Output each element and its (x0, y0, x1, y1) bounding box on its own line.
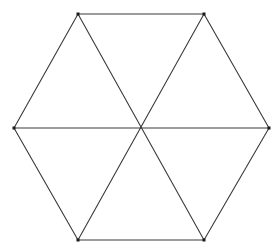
vertex-marker-right (268, 127, 271, 130)
hexagon-diagram (0, 0, 280, 252)
vertex-marker-bottom-right (203, 239, 206, 242)
vertex-marker-left (13, 127, 16, 130)
vertex-marker-top-right (203, 13, 206, 16)
hexagon-figure-canvas (0, 0, 280, 252)
vertex-marker-top-left (77, 13, 80, 16)
vertex-marker-bottom-left (77, 239, 80, 242)
